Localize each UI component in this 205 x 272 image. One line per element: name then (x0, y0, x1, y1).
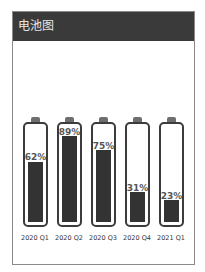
value-label: 62% (19, 152, 52, 162)
value-label: 31% (121, 183, 154, 193)
battery-fill (130, 192, 145, 222)
battery-body: 23% (159, 122, 184, 227)
battery-body: 62% (23, 122, 48, 227)
value-label: 23% (155, 191, 188, 201)
value-label: 89% (53, 127, 86, 137)
battery-fill (28, 162, 43, 222)
value-label: 75% (87, 141, 120, 151)
battery-fill (164, 200, 179, 222)
chart-title: 电池图 (18, 19, 54, 33)
battery-fill (96, 150, 111, 222)
chart-frame: 电池图 62% 89% 75% 31% 23% (12, 11, 195, 265)
battery-body: 31% (125, 122, 150, 227)
category-label: 2021 Q1 (151, 234, 191, 242)
battery-body: 89% (57, 122, 82, 227)
battery-body: 75% (91, 122, 116, 227)
chart-header: 电池图 (13, 12, 194, 41)
battery-fill (62, 136, 77, 222)
